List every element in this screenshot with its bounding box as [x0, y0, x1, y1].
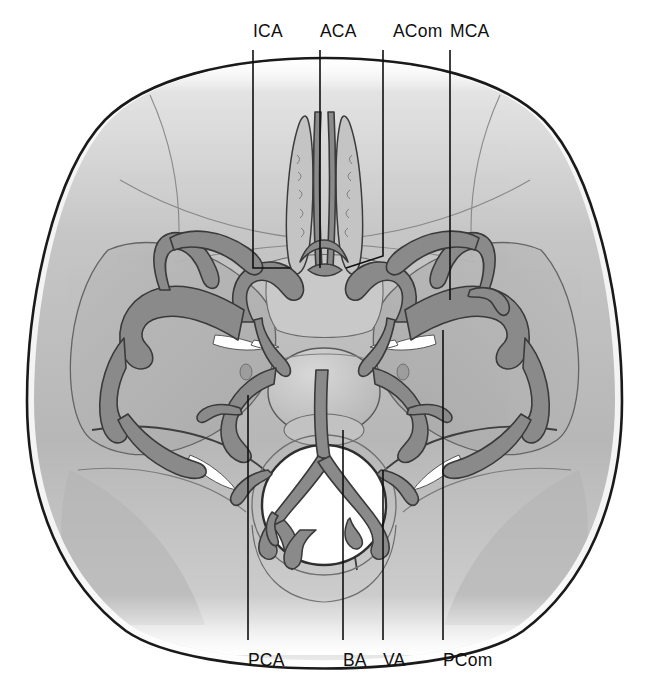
cranial-base-contents — [0, 55, 649, 687]
label-basilar-artery: BA — [343, 650, 367, 671]
label-vertebral-artery: VA — [383, 650, 405, 671]
label-anterior-cerebral-artery: ACA — [320, 21, 357, 42]
label-middle-cerebral-artery: MCA — [450, 21, 490, 42]
label-posterior-communicating-artery: PCom — [443, 650, 492, 671]
circle-of-willis-diagram — [0, 0, 649, 687]
label-anterior-communicating-artery: ACom — [393, 21, 442, 42]
label-posterior-cerebral-artery: PCA — [248, 650, 285, 671]
label-internal-carotid-artery: ICA — [253, 21, 283, 42]
